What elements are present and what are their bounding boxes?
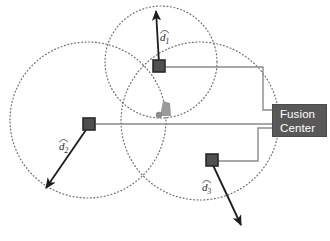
target-dot-icon — [156, 112, 162, 118]
vector-d3 — [212, 163, 241, 225]
estimated-target-marker — [156, 101, 171, 118]
vector-d2 — [46, 127, 88, 188]
fusion-center-node[interactable]: Fusion Center — [272, 104, 327, 137]
figure-canvas: d1 d2 d3 Fusion Center — [0, 0, 330, 241]
vector-label-d2-sub: 2 — [65, 146, 69, 155]
vector-label-d1: d1 — [160, 32, 169, 46]
fusion-links — [96, 67, 274, 161]
range-circle-sensor-3 — [121, 42, 279, 200]
link-sensor-3-to-fusion — [218, 128, 274, 161]
sensor-nodes — [83, 60, 218, 166]
sensing-range-circles — [10, 6, 279, 200]
sensor-node-1[interactable] — [153, 60, 165, 72]
vector-label-d3: d3 — [202, 182, 211, 196]
sensor-node-2[interactable] — [83, 118, 95, 130]
vector-label-d1-sub: 1 — [166, 37, 170, 46]
vector-label-d3-sub: 3 — [208, 187, 212, 196]
sensor-node-3[interactable] — [206, 154, 218, 166]
vector-label-d2: d2 — [59, 141, 68, 155]
link-sensor-1-to-fusion — [166, 67, 274, 110]
